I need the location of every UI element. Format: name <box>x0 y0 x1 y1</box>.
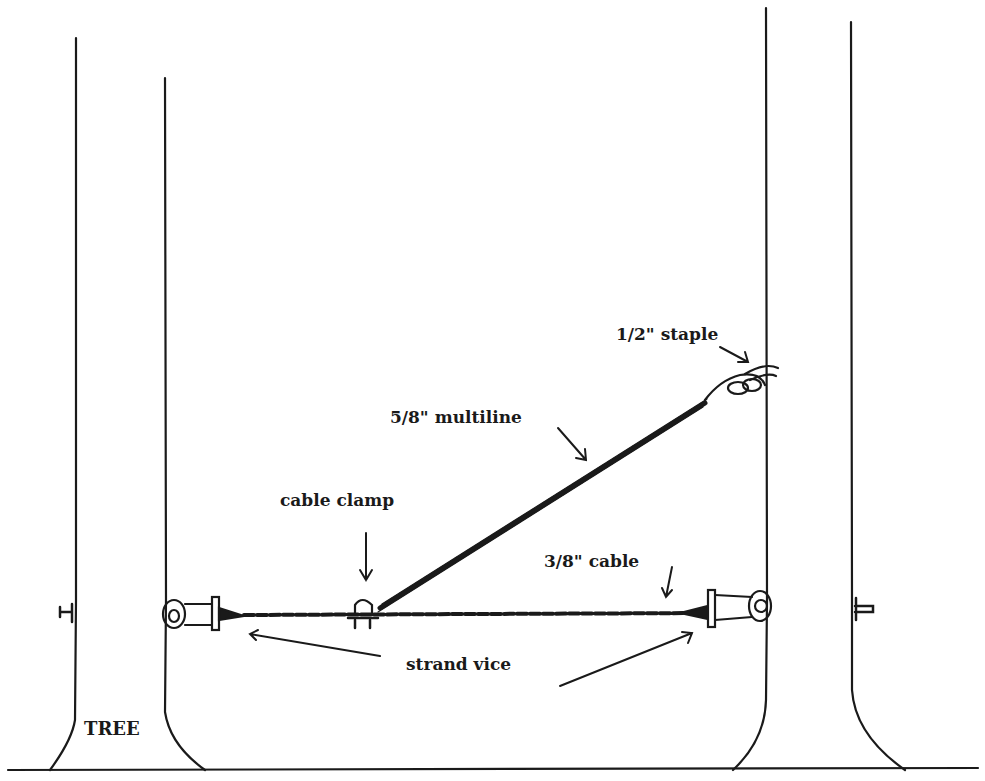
label-arrows <box>250 347 748 686</box>
label-staple: 1/2" staple <box>616 324 718 344</box>
label-strand-vice: strand vice <box>406 654 511 674</box>
label-multiline: 5/8" multiline <box>390 407 522 427</box>
label-cable: 3/8" cable <box>544 551 639 571</box>
label-tree: TREE <box>84 718 140 739</box>
right-strand-vice <box>680 590 771 627</box>
ground-line <box>8 768 978 770</box>
left-strand-vice <box>163 597 244 630</box>
horizontal-cable <box>244 613 710 615</box>
left-tree <box>50 38 205 770</box>
multiline-rope <box>380 403 705 608</box>
label-cable-clamp: cable clamp <box>280 490 394 510</box>
